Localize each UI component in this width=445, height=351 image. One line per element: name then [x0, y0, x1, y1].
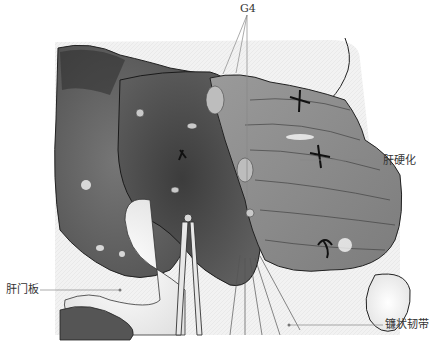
- label-falciform-ligament: 镰状韧带: [385, 319, 429, 330]
- leader-dot-hilar-plate: [119, 289, 122, 292]
- label-g4: G4: [240, 3, 256, 14]
- surgical-illustration: [0, 0, 445, 351]
- label-cirrhosis: 肝硬化: [383, 155, 416, 166]
- leader-dot-falciform: [288, 324, 291, 327]
- label-hilar-plate: 肝门板: [6, 284, 39, 295]
